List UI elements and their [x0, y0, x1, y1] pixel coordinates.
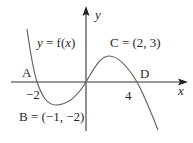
- x-axis-label: x: [177, 83, 184, 98]
- function-graph-diagram: y = f(x) y x A −2 B = (−1, −2) C = (2, 3…: [0, 0, 193, 143]
- graph-svg: y = f(x) y x A −2 B = (−1, −2) C = (2, 3…: [0, 0, 193, 143]
- point-d-label: D: [140, 66, 149, 81]
- y-axis-label: y: [93, 7, 101, 22]
- point-c-label: C = (2, 3): [110, 35, 161, 50]
- tick-4-label: 4: [125, 88, 132, 103]
- point-b-label: B = (−1, −2): [19, 109, 84, 124]
- point-a-label: A: [22, 65, 32, 80]
- curve-label: y = f(x): [35, 35, 75, 50]
- tick-minus-2-label: −2: [26, 87, 40, 102]
